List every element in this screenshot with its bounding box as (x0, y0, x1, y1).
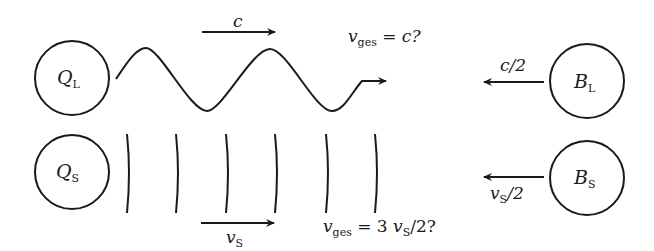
source-light-label: QL (57, 68, 80, 87)
question-light-rhs: = c? (382, 26, 420, 46)
observer-sound-subscript: S (588, 178, 596, 191)
question-sound-rhs-post: /2? (410, 216, 436, 236)
source-sound-subscript: S (72, 172, 80, 185)
source-light-symbol: Q (57, 66, 73, 88)
observer-light-symbol: B (574, 70, 588, 92)
diagram-graphics (0, 0, 654, 251)
wavefront-2 (176, 134, 178, 213)
wavefront-4 (275, 134, 277, 213)
sound-question-label: vges = 3 vS/2? (323, 218, 436, 235)
question-light-lhs: v (348, 26, 358, 46)
sound-speed-subscript: S (236, 237, 244, 250)
source-sound-symbol: Q (56, 160, 72, 182)
wavefront-6 (375, 134, 377, 213)
sound-speed-label: vS (226, 229, 243, 246)
wavefront-5 (326, 134, 328, 213)
observer-sound-speed-symbol: v (490, 183, 500, 203)
observer-sound-speed-label: vS/2 (490, 185, 524, 202)
observer-sound-symbol: B (574, 166, 588, 188)
sound-speed-symbol: v (226, 227, 236, 247)
observer-sound-label: BS (574, 168, 596, 187)
question-sound-rhs-pre: = 3 (357, 216, 393, 236)
question-light-lhs-sub: ges (358, 36, 377, 49)
wavefront-3 (226, 134, 228, 213)
light-speed-label: c (233, 13, 243, 30)
observer-light-label: BL (574, 72, 595, 91)
doppler-diagram: QL QS BL BS c vges = c? c/2 vS vges = 3 … (0, 0, 654, 251)
light-wave-icon (116, 48, 386, 111)
source-sound-label: QS (56, 162, 79, 181)
observer-sound-speed-subscript: S (500, 193, 508, 206)
question-sound-lhs: v (323, 216, 333, 236)
source-light-subscript: L (73, 78, 80, 91)
wavefront-1 (127, 134, 129, 213)
light-question-label: vges = c? (348, 28, 421, 45)
question-sound-rhs-sub: S (403, 226, 411, 239)
question-sound-lhs-sub: ges (333, 226, 352, 239)
observer-light-speed-label: c/2 (500, 57, 526, 74)
question-sound-rhs-sym: v (393, 216, 403, 236)
observer-light-subscript: L (588, 82, 595, 95)
observer-sound-speed-suffix: /2 (507, 183, 524, 203)
